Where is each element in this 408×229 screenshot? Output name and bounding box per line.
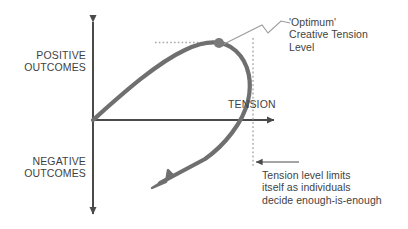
- optimum-point-marker: [214, 38, 224, 48]
- diagram-canvas: POSITIVE OUTCOMES NEGATIVE OUTCOMES TENS…: [0, 0, 408, 229]
- annotation-tension-limit: Tension level limits itself as individua…: [262, 169, 382, 206]
- axis-label-negative-outcomes: NEGATIVE OUTCOMES: [12, 155, 86, 180]
- axis-label-positive-outcomes: POSITIVE OUTCOMES: [12, 49, 86, 74]
- optimum-callout-leader: [224, 21, 290, 44]
- annotation-optimum-creative-tension-level: 'Optimum' Creative Tension Level: [289, 16, 368, 53]
- axis-label-tension: TENSION: [228, 98, 276, 110]
- tension-curve: [93, 43, 250, 188]
